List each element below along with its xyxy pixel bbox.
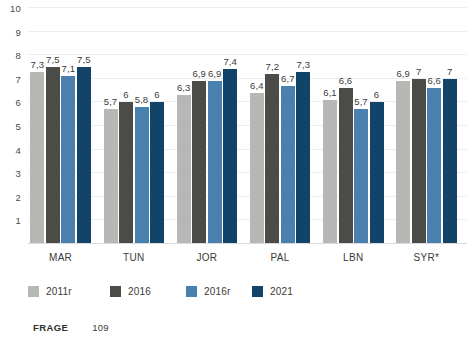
y-axis-tick: 2 <box>16 191 21 202</box>
category-label: MAR <box>49 252 72 263</box>
bar-item[interactable]: 6,6 <box>339 88 353 244</box>
bar[interactable] <box>104 109 118 244</box>
bar[interactable] <box>354 109 368 244</box>
bar-value-label: 6,4 <box>250 80 264 91</box>
y-axis-tick: 3 <box>16 168 21 179</box>
legend-swatch-icon <box>252 286 263 297</box>
bar-item[interactable]: 7,5 <box>77 67 91 244</box>
bar[interactable] <box>281 86 295 244</box>
footer-key: FRAGE <box>33 322 68 333</box>
bar[interactable] <box>323 100 337 244</box>
footer-value: 109 <box>92 322 108 333</box>
legend-item-2016[interactable]: 2016 <box>110 286 151 297</box>
bar-item[interactable]: 7 <box>443 79 457 244</box>
legend-item-2021[interactable]: 2021 <box>252 286 293 297</box>
x-axis-baseline <box>28 243 467 244</box>
bar[interactable] <box>208 81 222 244</box>
bar-value-label: 7,3 <box>297 59 311 70</box>
bar-item[interactable]: 5,8 <box>135 107 149 244</box>
bar[interactable] <box>30 72 44 244</box>
bar[interactable] <box>265 74 279 244</box>
bar-value-label: 5,8 <box>135 94 149 105</box>
bar-item[interactable]: 7 <box>412 79 426 244</box>
bar[interactable] <box>223 69 237 244</box>
bar-group: 6,47,26,77,3 <box>250 8 311 244</box>
y-axis-tick: 9 <box>16 26 21 37</box>
legend-label: 2011r <box>46 286 72 297</box>
legend-item-2016r[interactable]: 2016r <box>186 286 231 297</box>
category-label: SYR* <box>414 252 440 263</box>
bar-group: 5,765,86 <box>104 8 165 244</box>
bar-item[interactable]: 7,5 <box>46 67 60 244</box>
bar-group: 6,36,96,97,4 <box>177 8 238 244</box>
bar-value-label: 5,7 <box>104 96 118 107</box>
bar-groups: 7,37,57,17,55,765,866,36,96,97,46,47,26,… <box>28 8 467 244</box>
bar-item[interactable]: 5,7 <box>104 109 118 244</box>
bar[interactable] <box>370 102 384 244</box>
bar[interactable] <box>135 107 149 244</box>
bar[interactable] <box>46 67 60 244</box>
footer-note: FRAGE 109 <box>33 322 109 333</box>
bar-item[interactable]: 7,1 <box>61 76 75 244</box>
bar-item[interactable]: 6,6 <box>427 88 441 244</box>
category-label: JOR <box>196 252 217 263</box>
legend-label: 2021 <box>270 286 293 297</box>
bar[interactable] <box>427 88 441 244</box>
bar-item[interactable]: 6 <box>150 102 164 244</box>
bar-value-label: 5,7 <box>354 96 368 107</box>
bar[interactable] <box>119 102 133 244</box>
bar-value-label: 6,1 <box>323 87 337 98</box>
category-axis-labels: MARTUNJORPALLBNSYR* <box>0 252 467 270</box>
bar[interactable] <box>443 79 457 244</box>
bar[interactable] <box>412 79 426 244</box>
bar-value-label: 7,3 <box>31 59 45 70</box>
bar[interactable] <box>192 81 206 244</box>
bar[interactable] <box>396 81 410 244</box>
bar-item[interactable]: 6 <box>370 102 384 244</box>
bar-item[interactable]: 7,4 <box>223 69 237 244</box>
bar-item[interactable]: 6,9 <box>192 81 206 244</box>
bar-item[interactable]: 6,1 <box>323 100 337 244</box>
legend-swatch-icon <box>110 286 121 297</box>
y-axis-tick: 7 <box>16 73 21 84</box>
y-axis-tick: 5 <box>16 121 21 132</box>
legend-label: 2016 <box>128 286 151 297</box>
bar-value-label: 6,9 <box>192 68 206 79</box>
bar-item[interactable]: 6,9 <box>208 81 222 244</box>
bar-item[interactable]: 6 <box>119 102 133 244</box>
y-axis-tick: 6 <box>16 97 21 108</box>
bar-group: 6,976,67 <box>396 8 457 244</box>
legend-item-2011r[interactable]: 2011r <box>28 286 72 297</box>
bar-value-label: 7,1 <box>62 63 76 74</box>
bar-item[interactable]: 7,2 <box>265 74 279 244</box>
bar-item[interactable]: 5,7 <box>354 109 368 244</box>
category-label: LBN <box>343 252 363 263</box>
bar-item[interactable]: 7,3 <box>296 72 310 244</box>
plot-area: 7,37,57,17,55,765,866,36,96,97,46,47,26,… <box>28 8 467 244</box>
bar-group: 7,37,57,17,5 <box>30 8 91 244</box>
bar[interactable] <box>77 67 91 244</box>
bar[interactable] <box>150 102 164 244</box>
bar-value-label: 6 <box>123 89 128 100</box>
grouped-bar-chart: 12345678910 7,37,57,17,55,765,866,36,96,… <box>0 0 467 346</box>
bar-item[interactable]: 6,7 <box>281 86 295 244</box>
bar-item[interactable]: 7,3 <box>30 72 44 244</box>
bar[interactable] <box>296 72 310 244</box>
y-axis-tick: 10 <box>10 3 21 14</box>
bar-value-label: 6,7 <box>281 73 295 84</box>
bar-item[interactable]: 6,3 <box>177 95 191 244</box>
legend-swatch-icon <box>186 286 197 297</box>
y-axis-tick: 4 <box>16 144 21 155</box>
bar-value-label: 6,3 <box>177 82 191 93</box>
bar-value-label: 6,6 <box>427 75 441 86</box>
bar[interactable] <box>177 95 191 244</box>
bar-value-label: 6,6 <box>339 75 353 86</box>
bar[interactable] <box>61 76 75 244</box>
bar[interactable] <box>250 93 264 244</box>
bar-value-label: 7 <box>447 66 452 77</box>
bar-item[interactable]: 6,9 <box>396 81 410 244</box>
legend-swatch-icon <box>28 286 39 297</box>
bar[interactable] <box>339 88 353 244</box>
bar-item[interactable]: 6,4 <box>250 93 264 244</box>
category-label: TUN <box>123 252 144 263</box>
